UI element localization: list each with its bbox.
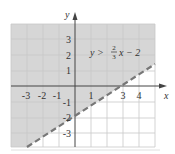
svg-text:2: 2 bbox=[66, 50, 71, 61]
svg-text:1: 1 bbox=[66, 65, 71, 76]
svg-text:-1: -1 bbox=[53, 90, 61, 101]
svg-text:3: 3 bbox=[66, 34, 71, 45]
svg-text:-1: -1 bbox=[63, 97, 71, 108]
y-axis-arrow-icon bbox=[73, 12, 78, 20]
svg-text:x − 2: x − 2 bbox=[118, 47, 140, 58]
svg-text:1: 1 bbox=[89, 90, 94, 101]
svg-text:-2: -2 bbox=[38, 90, 46, 101]
svg-text:-3: -3 bbox=[63, 128, 71, 139]
y-axis-label: y bbox=[64, 9, 70, 20]
svg-text:4: 4 bbox=[137, 90, 142, 101]
x-axis-label: x bbox=[163, 90, 169, 101]
svg-text:-3: -3 bbox=[22, 90, 30, 101]
svg-text:3: 3 bbox=[121, 90, 126, 101]
x-axis-arrow-icon bbox=[159, 84, 167, 89]
svg-text:-2: -2 bbox=[63, 112, 71, 123]
inequality-graph: x y -3 -2 -1 1 3 4 3 2 1 -1 -2 -3 y > 2 … bbox=[0, 0, 175, 154]
svg-text:2: 2 bbox=[112, 44, 116, 52]
svg-text:y >: y > bbox=[89, 47, 104, 58]
svg-text:3: 3 bbox=[112, 53, 116, 61]
